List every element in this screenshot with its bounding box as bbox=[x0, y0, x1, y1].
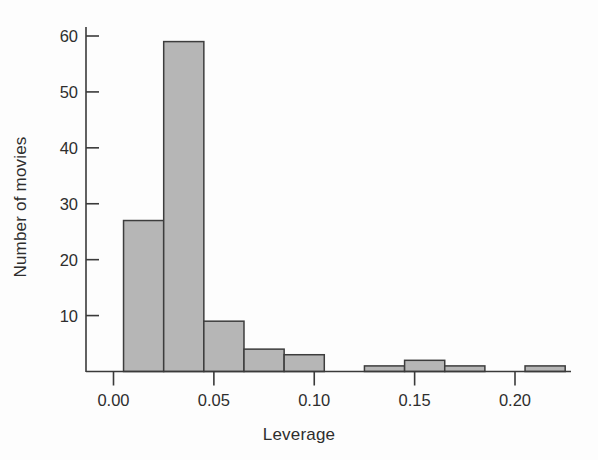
x-tick-label: 0.05 bbox=[198, 391, 230, 409]
histogram-bar bbox=[244, 349, 284, 371]
histogram-bar bbox=[405, 360, 445, 371]
x-tick-label: 0.00 bbox=[97, 391, 129, 409]
y-tick-label: 40 bbox=[60, 139, 78, 157]
x-tick-label: 0.15 bbox=[399, 391, 431, 409]
histogram-bar bbox=[124, 221, 164, 372]
y-axis-title: Number of movies bbox=[11, 136, 30, 277]
y-tick-label: 10 bbox=[60, 307, 78, 325]
histogram-bar bbox=[525, 366, 565, 372]
histogram-bar bbox=[164, 42, 204, 372]
y-tick-label: 30 bbox=[60, 195, 78, 213]
histogram-bar bbox=[284, 355, 324, 372]
x-axis-title: Leverage bbox=[263, 425, 336, 444]
x-tick-label: 0.20 bbox=[499, 391, 531, 409]
y-tick-label: 50 bbox=[60, 83, 78, 101]
histogram-bar bbox=[445, 366, 485, 372]
histogram-bar bbox=[364, 366, 404, 372]
bars-group bbox=[124, 42, 566, 372]
y-tick-label: 60 bbox=[60, 27, 78, 45]
histogram-figure: 1020304050600.000.050.100.150.20 Leverag… bbox=[0, 0, 598, 460]
y-tick-label: 20 bbox=[60, 251, 78, 269]
histogram-bar bbox=[204, 321, 244, 371]
histogram-plot: 1020304050600.000.050.100.150.20 Leverag… bbox=[0, 0, 598, 460]
x-tick-label: 0.10 bbox=[298, 391, 330, 409]
